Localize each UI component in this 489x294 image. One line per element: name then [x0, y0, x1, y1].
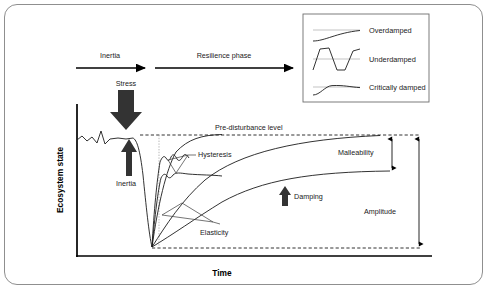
legend-label-critically-damped: Critically damped — [369, 83, 426, 92]
inertia-event: Inertia — [116, 139, 137, 188]
elasticity-leader-tail — [213, 222, 220, 224]
stress-label: Stress — [116, 79, 137, 88]
inertia-phase-label: Inertia — [100, 51, 120, 60]
baseline-fluctuation-curve — [77, 131, 133, 144]
damping-arrow-icon — [279, 186, 291, 206]
resilience-diagram: Inertia Resilience phase Overdamped Unde… — [0, 0, 489, 294]
figure-container: Inertia Resilience phase Overdamped Unde… — [0, 0, 489, 294]
inertia-arrow-icon — [121, 139, 137, 176]
resilience-phase-label: Resilience phase — [197, 51, 252, 60]
disturbance-collapse-curve — [133, 138, 152, 247]
underdamped-upper-curve — [152, 155, 189, 247]
inertia-arrow-label: Inertia — [116, 179, 136, 188]
amplitude-label: Amplitude — [364, 207, 396, 216]
hysteresis-label: Hysteresis — [198, 150, 232, 159]
legend-label-underdamped: Underdamped — [369, 55, 416, 64]
reference-levels: Pre-disturbance level — [140, 123, 420, 248]
pre-disturbance-label: Pre-disturbance level — [215, 123, 283, 132]
malleability-measure: Malleability — [338, 139, 392, 168]
phase-arrows-group: Inertia Resilience phase — [76, 51, 293, 68]
legend-label-overdamped: Overdamped — [369, 26, 412, 35]
stress-arrow-icon — [110, 90, 142, 130]
y-axis-label: Ecosystem state — [55, 147, 65, 213]
damping-label: Damping — [294, 192, 323, 201]
overdamped-malleable-curve — [152, 171, 390, 247]
x-axis-label: Time — [212, 268, 232, 278]
legend-box: Overdamped Underdamped Critically damped — [303, 14, 429, 102]
malleability-label: Malleability — [338, 148, 374, 157]
stress-event: Stress — [110, 79, 142, 130]
elasticity-label: Elasticity — [200, 228, 229, 237]
hysteresis-annotation: Hysteresis — [168, 150, 232, 173]
damping-event: Damping — [279, 186, 323, 206]
elasticity-annotation: Elasticity — [162, 203, 229, 237]
